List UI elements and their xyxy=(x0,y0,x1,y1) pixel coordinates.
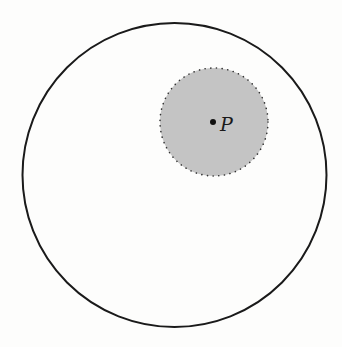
outer-circle xyxy=(23,23,327,327)
diagram-canvas: P xyxy=(0,0,342,347)
point-p-dot xyxy=(210,119,216,125)
point-p-label: P xyxy=(219,113,234,135)
